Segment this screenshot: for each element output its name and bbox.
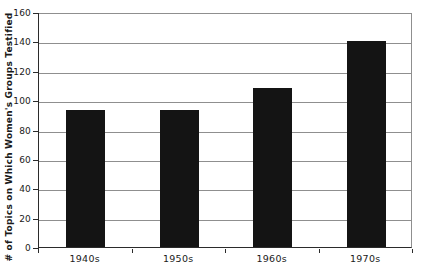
- y-tick-label-100: 100: [0, 96, 31, 107]
- x-tick-3: [319, 249, 320, 253]
- bar-1970s: [347, 41, 386, 247]
- y-tick-label-160: 160: [0, 8, 31, 19]
- y-tick-160: [33, 13, 39, 14]
- x-tick-0: [38, 249, 39, 253]
- y-tick-label-0: 0: [0, 243, 31, 254]
- bar-1960s: [253, 88, 292, 247]
- y-tick-20: [33, 219, 39, 220]
- x-tick-2: [225, 249, 226, 253]
- x-tick-4: [412, 249, 413, 253]
- plot-area: [38, 13, 412, 248]
- x-label-1960s: 1960s: [256, 253, 287, 265]
- y-tick-140: [33, 42, 39, 43]
- y-tick-label-140: 140: [0, 37, 31, 48]
- bar-1950s: [160, 110, 199, 247]
- x-label-1970s: 1970s: [350, 253, 381, 265]
- bar-chart: # of Topics on Which Women's Groups Test…: [0, 0, 421, 273]
- bar-1940s: [66, 110, 105, 247]
- y-tick-60: [33, 160, 39, 161]
- x-tick-1: [132, 249, 133, 253]
- y-tick-80: [33, 131, 39, 132]
- y-tick-label-40: 40: [0, 184, 31, 195]
- y-tick-label-120: 120: [0, 67, 31, 78]
- y-tick-100: [33, 101, 39, 102]
- y-tick-label-80: 80: [0, 126, 31, 137]
- y-tick-120: [33, 72, 39, 73]
- y-tick-40: [33, 189, 39, 190]
- y-tick-label-20: 20: [0, 214, 31, 225]
- x-label-1950s: 1950s: [163, 253, 194, 265]
- x-label-1940s: 1940s: [69, 253, 100, 265]
- y-tick-label-60: 60: [0, 155, 31, 166]
